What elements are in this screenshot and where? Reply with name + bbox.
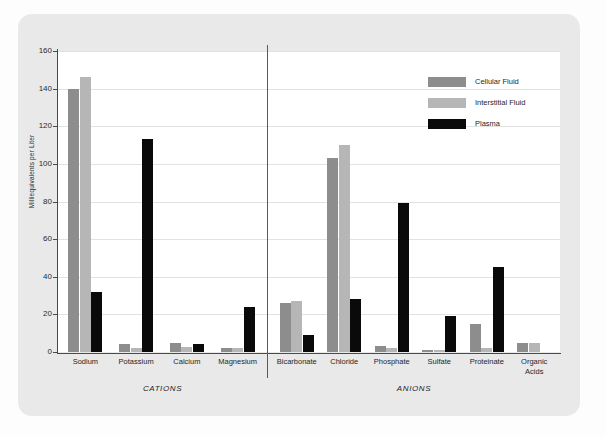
bar xyxy=(470,324,481,352)
bar xyxy=(119,344,130,352)
legend-label: Interstitial Fluid xyxy=(475,98,525,107)
y-tick-mark xyxy=(53,314,57,315)
y-axis-title: Milliequivalents per Liter xyxy=(28,112,35,232)
bar xyxy=(398,203,409,352)
legend-swatch xyxy=(428,98,466,108)
y-tick-label: 100 xyxy=(22,159,52,168)
y-tick-mark xyxy=(53,51,57,52)
legend: Cellular FluidInterstitial FluidPlasma xyxy=(428,71,568,134)
bar xyxy=(386,348,397,352)
y-tick-mark xyxy=(53,277,57,278)
bar xyxy=(181,347,192,352)
bar xyxy=(339,145,350,352)
x-axis-label: OrganicAcids xyxy=(504,357,564,377)
y-tick-label: 60 xyxy=(22,234,52,243)
chart-screenshot: 020406080100120140160 Milliequivalents p… xyxy=(0,0,606,436)
bar xyxy=(91,292,102,352)
bar xyxy=(303,335,314,352)
bar xyxy=(193,344,204,352)
bar xyxy=(80,77,91,352)
bar xyxy=(244,307,255,352)
bar xyxy=(280,303,291,352)
y-tick-mark xyxy=(53,164,57,165)
y-axis-ticks: 020406080100120140160 xyxy=(18,0,52,436)
x-axis-label: Magnesium xyxy=(208,357,268,367)
bar xyxy=(327,158,338,352)
y-tick-label: 160 xyxy=(22,46,52,55)
y-tick-label: 20 xyxy=(22,309,52,318)
bar xyxy=(493,267,504,352)
y-tick-label: 40 xyxy=(22,272,52,281)
group-title-anions: ANIONS xyxy=(268,384,560,393)
bar xyxy=(131,348,142,352)
bar xyxy=(350,299,361,352)
bar xyxy=(291,301,302,352)
y-tick-mark xyxy=(53,89,57,90)
bar xyxy=(232,348,243,352)
x-axis-category-labels: SodiumPotassiumCalciumMagnesiumBicarbona… xyxy=(58,357,560,387)
bar xyxy=(481,348,492,352)
legend-item: Cellular Fluid xyxy=(428,71,568,92)
y-tick-label: 80 xyxy=(22,197,52,206)
bar xyxy=(422,350,433,352)
y-tick-mark xyxy=(53,239,57,240)
y-tick-mark xyxy=(53,126,57,127)
bar xyxy=(517,343,528,352)
bar xyxy=(375,346,386,352)
section-divider xyxy=(267,45,268,378)
y-tick-label: 140 xyxy=(22,84,52,93)
bar xyxy=(170,343,181,352)
y-tick-label: 120 xyxy=(22,121,52,130)
bar xyxy=(445,316,456,352)
legend-label: Cellular Fluid xyxy=(475,77,519,86)
legend-item: Plasma xyxy=(428,113,568,134)
bar xyxy=(529,343,540,352)
bar xyxy=(221,348,232,352)
bar xyxy=(142,139,153,352)
bar xyxy=(68,89,79,352)
y-tick-label: 0 xyxy=(22,347,52,356)
y-tick-mark xyxy=(53,202,57,203)
x-axis-line xyxy=(57,353,561,354)
legend-swatch xyxy=(428,77,466,87)
legend-label: Plasma xyxy=(475,119,500,128)
y-tick-mark xyxy=(53,352,57,353)
legend-item: Interstitial Fluid xyxy=(428,92,568,113)
group-title-cations: CATIONS xyxy=(58,384,267,393)
bar xyxy=(434,350,445,352)
legend-swatch xyxy=(428,119,466,129)
